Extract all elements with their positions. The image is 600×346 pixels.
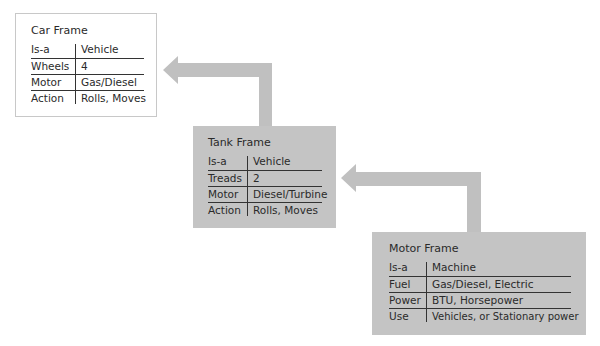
slot-key: Action	[31, 91, 64, 106]
slot-value: Vehicles, or Stationary power	[432, 309, 579, 324]
slot-value: BTU, Horsepower	[432, 293, 523, 308]
slot-key: Fuel	[389, 277, 411, 292]
car-frame-title: Car Frame	[31, 24, 88, 37]
table-row: Use Vehicles, or Stationary power	[389, 308, 571, 324]
motor-frame: Motor Frame Is-a Machine Fuel Gas/Diesel…	[372, 232, 586, 335]
slot-key: Motor	[208, 187, 238, 202]
motor-frame-title: Motor Frame	[389, 242, 459, 255]
slot-value: Gas/Diesel	[81, 75, 137, 90]
motor-frame-table: Is-a Machine Fuel Gas/Diesel, Electric P…	[389, 260, 571, 324]
table-row: Is-a Vehicle	[31, 42, 144, 58]
tank-frame-title: Tank Frame	[208, 136, 271, 149]
slot-value: Machine	[432, 260, 476, 275]
table-row: Action Rolls, Moves	[208, 202, 322, 218]
table-row: Is-a Machine	[389, 260, 571, 276]
table-row: Action Rolls, Moves	[31, 90, 144, 106]
table-row: Is-a Vehicle	[208, 154, 322, 170]
slot-key: Is-a	[208, 154, 227, 169]
slot-value: Rolls, Moves	[81, 91, 146, 106]
car-frame-table: Is-a Vehicle Wheels 4 Motor Gas/Diesel A…	[31, 42, 144, 106]
arrow-motor-to-tank-shape	[341, 164, 481, 232]
slot-key: Is-a	[389, 260, 408, 275]
slot-key: Use	[389, 309, 409, 324]
slot-value: 4	[81, 59, 88, 74]
slot-value: Vehicle	[253, 154, 291, 169]
slot-value: Diesel/Turbine	[253, 187, 327, 202]
slot-value: Rolls, Moves	[253, 203, 318, 218]
table-row: Motor Diesel/Turbine	[208, 186, 322, 202]
slot-value: Gas/Diesel, Electric	[432, 277, 533, 292]
arrow-tank-to-car-shape	[163, 56, 272, 126]
slot-key: Treads	[208, 171, 242, 186]
table-row: Wheels 4	[31, 58, 144, 74]
slot-key: Wheels	[31, 59, 69, 74]
table-row: Fuel Gas/Diesel, Electric	[389, 276, 571, 292]
slot-key: Is-a	[31, 42, 50, 57]
table-row: Power BTU, Horsepower	[389, 292, 571, 308]
slot-value: 2	[253, 171, 260, 186]
slot-key: Action	[208, 203, 241, 218]
table-row: Motor Gas/Diesel	[31, 74, 144, 90]
car-frame: Car Frame Is-a Vehicle Wheels 4 Motor Ga…	[15, 13, 157, 117]
slot-value: Vehicle	[81, 42, 119, 57]
tank-frame-table: Is-a Vehicle Treads 2 Motor Diesel/Turbi…	[208, 154, 322, 218]
tank-frame: Tank Frame Is-a Vehicle Treads 2 Motor D…	[193, 126, 336, 228]
slot-key: Motor	[31, 75, 61, 90]
slot-key: Power	[389, 293, 421, 308]
table-row: Treads 2	[208, 170, 322, 186]
